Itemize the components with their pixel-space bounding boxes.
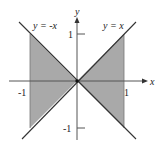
line-label-pos: y = x: [102, 20, 124, 31]
y-axis-label: y: [74, 6, 80, 17]
x-tick-label-1: 1: [124, 87, 129, 98]
y-axis-arrow-icon: [75, 17, 80, 23]
x-tick-label-neg1: -1: [18, 87, 26, 98]
y-tick-label-neg1: -1: [63, 123, 71, 134]
origin-point: [76, 80, 79, 83]
x-axis-arrow-icon: [142, 79, 148, 84]
region-diagram: y = -x y = x y x -1 1 1 -1: [0, 0, 160, 142]
y-tick-label-1: 1: [68, 29, 73, 40]
x-axis-label: x: [149, 76, 155, 87]
line-label-neg: y = -x: [32, 20, 58, 31]
